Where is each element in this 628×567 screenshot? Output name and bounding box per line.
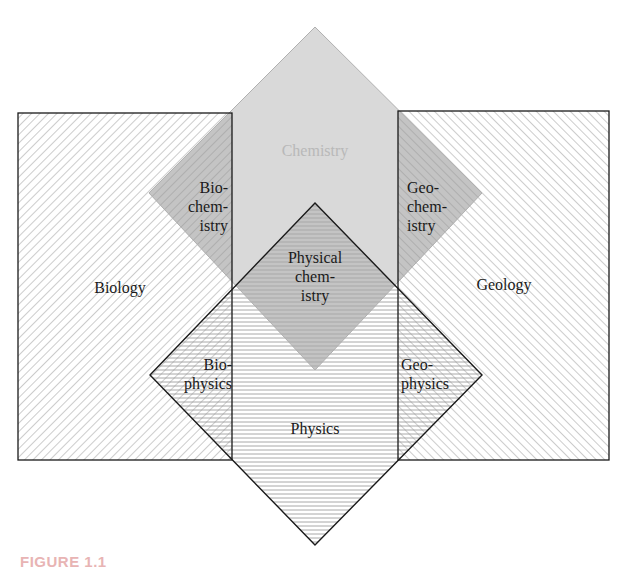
biochemistry-label: Bio- chem- istry: [160, 178, 228, 235]
figure-caption: FIGURE 1.1: [20, 553, 107, 567]
chemistry-label: Chemistry: [255, 141, 375, 160]
biophysics-label: Bio- physics: [160, 355, 232, 393]
geophysics-label: Geo- physics: [401, 355, 475, 393]
biology-label: Biology: [60, 278, 180, 297]
geochemistry-label: Geo- chem- istry: [407, 178, 477, 235]
physics-label: Physics: [255, 419, 375, 438]
physical-chemistry-label: Physical chem- istry: [255, 248, 375, 305]
geology-label: Geology: [444, 275, 564, 294]
